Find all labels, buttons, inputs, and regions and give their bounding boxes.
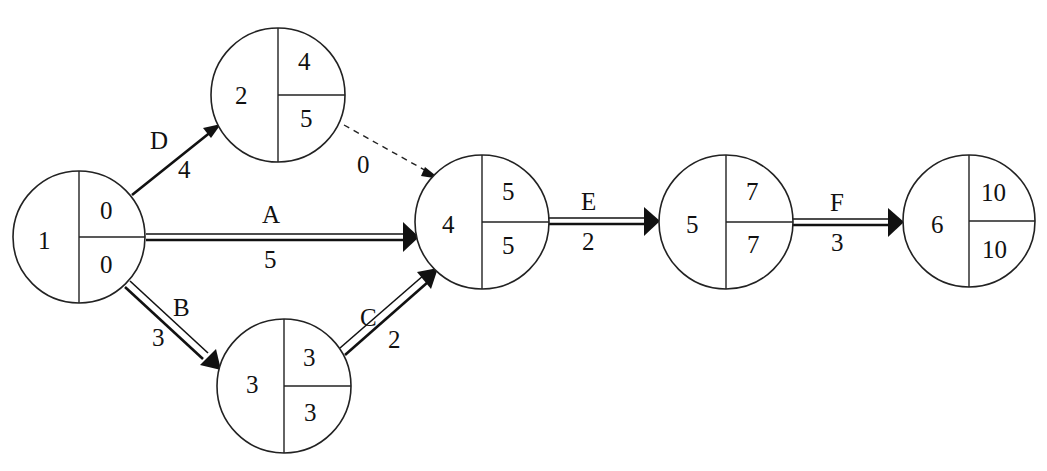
node-1-earliest: 0 xyxy=(100,197,113,224)
edge-b-activity: B xyxy=(173,294,190,321)
edge-d-duration: 4 xyxy=(178,156,191,183)
edge-b-duration: 3 xyxy=(152,324,165,351)
edge-c-duration: 2 xyxy=(388,326,401,353)
network-diagram: D 4 A 5 B 3 C 2 0 E 2 xyxy=(0,0,1047,471)
edge-e-duration: 2 xyxy=(582,228,595,255)
node-1-latest: 0 xyxy=(100,251,113,278)
edge-dummy: 0 xyxy=(344,125,440,179)
node-5: 5 7 7 xyxy=(659,155,793,289)
edge-f: F 3 xyxy=(793,189,904,256)
node-5-latest: 7 xyxy=(747,231,760,258)
arrowhead-icon xyxy=(888,208,904,237)
node-5-earliest: 7 xyxy=(746,178,759,205)
edge-a-activity: A xyxy=(262,201,280,228)
node-2-number: 2 xyxy=(235,82,248,109)
edge-b: B 3 xyxy=(125,281,221,370)
node-5-number: 5 xyxy=(686,211,699,238)
node-2: 2 4 5 xyxy=(211,28,345,162)
node-3-number: 3 xyxy=(246,371,259,398)
edge-b-line-top xyxy=(130,281,208,353)
edge-dummy-duration: 0 xyxy=(357,151,370,178)
edge-f-activity: F xyxy=(830,189,844,216)
edge-d-line xyxy=(132,131,212,195)
edge-d-activity: D xyxy=(150,127,168,154)
edge-d: D 4 xyxy=(132,124,221,195)
edge-e-activity: E xyxy=(581,188,596,215)
node-6-latest: 10 xyxy=(982,236,1007,263)
node-2-latest: 5 xyxy=(300,105,313,132)
arrowhead-icon xyxy=(644,207,660,236)
node-3: 3 3 3 xyxy=(217,319,351,453)
node-1: 1 0 0 xyxy=(13,171,145,303)
edge-c: C 2 xyxy=(340,268,438,355)
node-4: 4 5 5 xyxy=(415,155,549,289)
edge-a-duration: 5 xyxy=(264,246,277,273)
edge-c-activity: C xyxy=(360,304,377,331)
node-6: 6 10 10 xyxy=(903,155,1035,287)
node-4-number: 4 xyxy=(442,211,455,238)
node-2-earliest: 4 xyxy=(298,48,311,75)
edge-e: E 2 xyxy=(548,188,660,255)
node-4-earliest: 5 xyxy=(502,178,515,205)
edge-c-line-top xyxy=(340,275,424,348)
arrowhead-icon xyxy=(200,349,221,370)
node-6-earliest: 10 xyxy=(981,179,1006,206)
node-3-earliest: 3 xyxy=(303,344,316,371)
edge-c-line-bottom xyxy=(345,282,428,355)
node-4-latest: 5 xyxy=(502,232,515,259)
node-6-number: 6 xyxy=(931,211,944,238)
edge-f-duration: 3 xyxy=(831,229,844,256)
node-3-latest: 3 xyxy=(304,399,317,426)
edge-a: A 5 xyxy=(146,201,419,273)
node-1-number: 1 xyxy=(38,227,51,254)
